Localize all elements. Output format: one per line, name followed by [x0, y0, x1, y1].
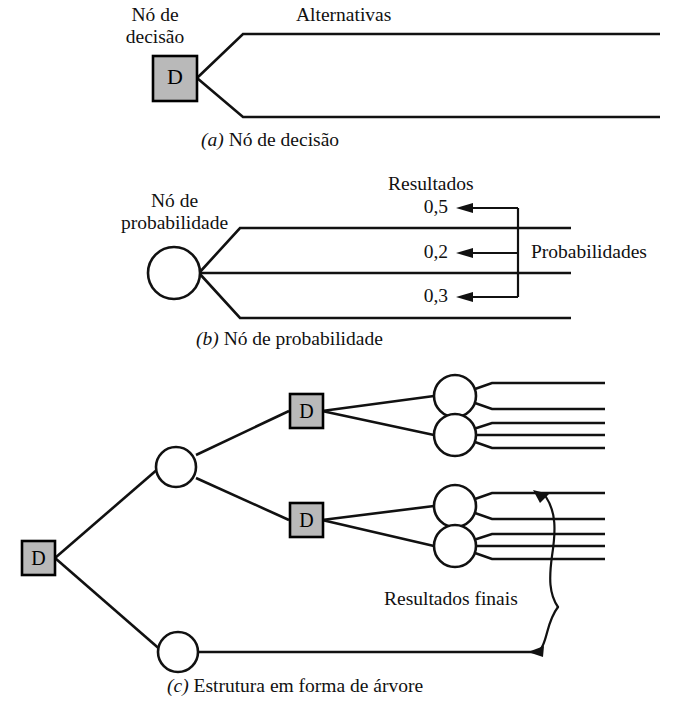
- panel-c-leaf-1b: [455, 396, 605, 409]
- panel-c-chance-node-4: [434, 525, 476, 567]
- panel-c-lines: [55, 383, 605, 652]
- panel-c-leaf-1a: [455, 383, 605, 396]
- brace-lower-half: [536, 607, 558, 652]
- panel-c-dbot-to-chance-2: [322, 520, 434, 546]
- panel-c-decision-node-root: [22, 541, 55, 575]
- panel-c-caption-marker: (c): [167, 675, 189, 696]
- panel-c-chance-node-3: [434, 485, 476, 527]
- panel-b-lines: [199, 228, 571, 318]
- panel-c-caption-text: Estrutura em forma de árvore: [189, 675, 423, 696]
- panel-b-node-label-line1: Nó de: [92, 190, 257, 212]
- panel-c-caption: (c) Estrutura em forma de árvore: [167, 675, 423, 697]
- panel-b-probability-0: 0,5: [400, 196, 448, 218]
- panel-c-dbot-to-chance-1: [322, 506, 434, 520]
- panel-c-final-outcomes-label: Resultados finais: [384, 588, 518, 610]
- figure-line-art: [0, 0, 674, 703]
- panel-c-chance-node-bottom: [158, 632, 198, 672]
- panel-a-node-label-line2: decisão: [105, 26, 205, 48]
- panel-b-probability-bracket: [470, 208, 518, 297]
- panel-b-probability-1: 0,2: [400, 241, 448, 263]
- panel-c-root-branch-lower: [55, 558, 163, 652]
- panel-b-node-label: Nó de probabilidade: [92, 190, 257, 234]
- panel-b-caption-text: Nó de probabilidade: [219, 328, 383, 349]
- panel-c-leaf-4a: [455, 534, 605, 546]
- panel-c-leaf-4c: [455, 546, 605, 559]
- arrowhead-bottom: [456, 292, 473, 302]
- panel-b-branch-3: [199, 273, 571, 318]
- panel-c-root-branch-upper: [55, 468, 159, 558]
- panel-a-branch-upper: [197, 34, 660, 78]
- panel-b-branch-1: [199, 228, 571, 273]
- panel-a-caption: (a) Nó de decisão: [201, 129, 339, 151]
- panel-b-outcomes-header: Resultados: [388, 173, 474, 195]
- panel-c-chance-to-d-bottom: [196, 478, 289, 520]
- panel-b-node-label-line2: probabilidade: [92, 212, 257, 234]
- panel-b-caption-marker: (b): [196, 328, 219, 349]
- panel-c-chance-to-d-top: [196, 411, 289, 455]
- panel-a-caption-text: Nó de decisão: [224, 129, 339, 150]
- panel-a-caption-marker: (a): [201, 129, 224, 150]
- panel-c-decision-node-bottom: [290, 503, 323, 537]
- panel-b-chance-node: [148, 247, 200, 299]
- panel-c-leaf-3a: [455, 493, 605, 506]
- arrowhead-mid: [456, 248, 473, 258]
- panel-a-branch-lower: [197, 78, 660, 117]
- panel-c-chance-node-root: [156, 447, 196, 487]
- panel-c-brace-arrowheads: [528, 490, 549, 657]
- panel-b-probability-2: 0,3: [400, 285, 448, 307]
- panel-b-caption: (b) Nó de probabilidade: [196, 328, 383, 350]
- panel-c-leaf-2c: [455, 435, 605, 448]
- panel-b-bracket-label: Probabilidades: [531, 241, 647, 263]
- brace-upper-half: [546, 497, 558, 607]
- decision-tree-figure: Nó de decisão Alternativas D (a) Nó de d…: [0, 0, 674, 703]
- panel-c-leaf-3b: [455, 506, 605, 519]
- panel-c-chance-node-1: [434, 375, 476, 417]
- panel-a-node-label: Nó de decisão: [105, 4, 205, 48]
- panel-c-dtop-to-chance-2: [322, 411, 434, 435]
- panel-c-decision-node-top: [290, 394, 323, 428]
- panel-b-arrowheads: [456, 203, 473, 302]
- panel-a-lines: [197, 34, 660, 117]
- panel-a-branch-label: Alternativas: [296, 4, 391, 26]
- brace-arrowhead-bottom: [528, 646, 544, 657]
- panel-c-leaf-2a: [455, 423, 605, 435]
- panel-c-chance-node-2: [434, 414, 476, 456]
- panel-a-node-label-line1: Nó de: [105, 4, 205, 26]
- panel-a-decision-node: [153, 56, 197, 101]
- arrowhead-top: [456, 203, 473, 213]
- panel-c-dtop-to-chance-1: [322, 396, 434, 411]
